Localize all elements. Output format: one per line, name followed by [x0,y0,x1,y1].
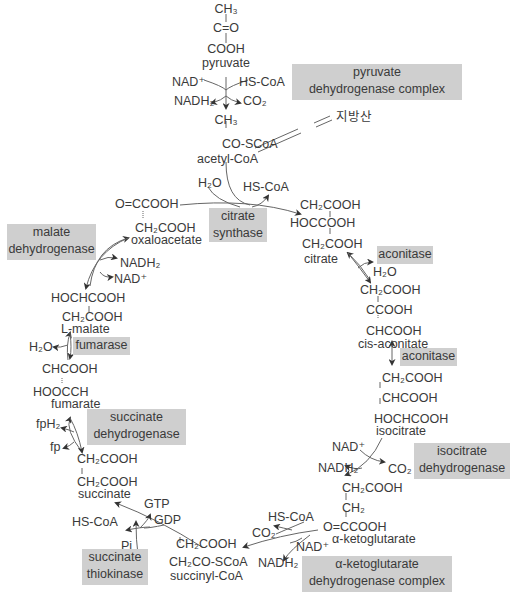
enzyme-aconitase-2: aconitase [400,348,457,366]
cis-aconitate-line2: CCOOH [366,303,413,317]
enzyme-alpha-ketoglutarate-dehydrogenase-complex: α-ketoglutarate dehydrogenase complex [302,556,452,592]
isocitrate-line1: CH₂COOH [382,371,442,385]
enzyme-label: fumarase [73,337,130,354]
malate-line1: HOCHCOOH [51,291,125,305]
enzyme-label: citrate [209,208,267,225]
enzyme-isocitrate-dehydrogenase: isocitrate dehydrogenase [414,443,510,479]
akgdh-nad: NAD⁺ [296,540,329,554]
akg-line2: CH₂ [342,501,365,515]
enzyme-label: dehydrogenase [87,426,186,443]
enzyme-label: synthase [209,225,267,242]
fumarate-label: fumarate [51,397,100,411]
enzyme-succinate-thiokinase: succinate thiokinase [82,549,148,585]
enzyme-label: succinate [82,549,148,566]
citrate-label: citrate [304,252,338,266]
enzyme-label: aconitase [400,348,457,365]
pdh-nadh2: NADH₂ [174,94,214,108]
icdh-nad: NAD⁺ [332,440,365,454]
akgdh-nadh2: NADH₂ [258,556,298,570]
icdh-nadh2: NADH₂ [318,461,358,475]
fumarate-line1: CHCOOH [42,362,98,376]
succinate-line1: CH₂COOH [77,452,137,466]
mdh-nadh2: NADH₂ [120,256,160,270]
enzyme-label: thiokinase [82,566,148,583]
acetyl-coa-label: acetyl-CoA [197,152,258,166]
oaa-line1: O=CCOOH [115,197,179,211]
malate-label: L-malate [61,322,110,336]
icdh-co2: CO₂ [388,462,412,476]
cis-aconitate-line1: CH₂COOH [360,283,420,297]
akgdh-hscoa: HS-CoA [268,510,314,524]
st-gdp: GDP [154,513,181,527]
succinyl-coa-line1: CH₂COOH [176,537,236,551]
enzyme-label: dehydrogenase [7,241,96,258]
succinyl-coa-label: succinyl-CoA [170,569,243,583]
enzyme-pyruvate-dehydrogenase-complex: pyruvate dehydrogenase complex [292,64,462,100]
st-gtp: GTP [144,497,170,511]
enzyme-label: dehydrogenase [414,460,510,477]
enzyme-citrate-synthase: citrate synthase [209,208,267,242]
citrate-line2: HOCCOOH [290,216,355,230]
st-hscoa: HS-CoA [72,515,118,529]
enzyme-label: dehydrogenase complex [302,573,452,590]
succinyl-coa-line2: CH₂CO-SCoA [169,555,247,569]
pdh-nad: NAD⁺ [172,75,205,89]
enzyme-aconitase-1: aconitase [377,246,433,264]
citrate-line1: CH₂COOH [300,198,360,212]
enzyme-malate-dehydrogenase: malate dehydrogenase [7,224,96,260]
fatty-acid-label: 지방산 [336,110,372,124]
enzyme-label: α-ketoglutarate [302,556,452,573]
enzyme-label: succinate [87,409,186,426]
alpha-ketoglutarate-label: α-ketoglutarate [332,532,416,546]
cs-hscoa: HS-CoA [243,180,289,194]
fumarase-h2o: H₂O [29,340,53,354]
pdh-hscoa: HS-CoA [239,75,285,89]
mdh-nad: NAD⁺ [114,272,147,286]
aconitase1-h2o: H₂O [373,265,397,279]
citrate-line3: CH₂COOH [302,237,362,251]
sdh-fph2: fpH₂ [36,417,60,431]
cis-aconitate-line3: CHCOOH [366,324,422,338]
akg-line1: CH₂COOH [342,481,402,495]
sdh-fp: fp [50,440,60,454]
akgdh-co2: CO₂ [252,526,276,540]
pyruvate-label: pyruvate [196,56,256,70]
pyruvate-cooh: COOH [200,42,252,56]
isocitrate-label: isocitrate [376,424,426,438]
enzyme-succinate-dehydrogenase: succinate dehydrogenase [87,409,186,445]
isocitrate-line2: CHCOOH [382,391,438,405]
enzyme-label: malate [7,224,96,241]
pdh-co2: CO₂ [243,94,267,108]
pyruvate-co: C=O [206,21,246,35]
oxaloacetate-label: oxaloacetate [131,233,202,247]
acetyl-coscoa: CO-SCoA [222,137,278,151]
enzyme-fumarase: fumarase [73,337,130,355]
enzyme-label: isocitrate [414,443,510,460]
pyruvate-ch3: CH₃ [206,2,246,16]
succinate-label: succinate [78,487,131,501]
cs-h2o: H₂O [198,176,222,190]
enzyme-label: pyruvate [292,64,462,81]
enzyme-label: dehydrogenase complex [292,81,462,98]
acetyl-ch3: CH₃ [206,113,246,127]
enzyme-label: aconitase [377,246,433,263]
